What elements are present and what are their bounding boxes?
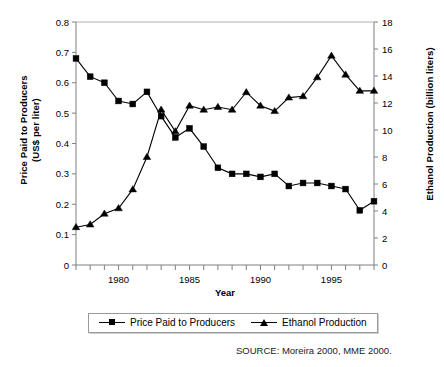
- y-axis-left: 00.10.20.30.40.50.60.70.8: [56, 17, 76, 271]
- svg-text:1995: 1995: [321, 274, 342, 285]
- x-axis-title: Year: [150, 287, 300, 298]
- chart-figure: Price Paid to Producers (US$ per liter) …: [0, 0, 444, 367]
- legend-item-price[interactable]: Price Paid to Producers: [99, 317, 235, 328]
- plot-canvas: 00.10.20.30.40.50.60.70.8 02468101214161…: [0, 0, 444, 367]
- svg-text:8: 8: [382, 152, 387, 163]
- svg-text:0.8: 0.8: [56, 17, 69, 28]
- svg-text:0.7: 0.7: [56, 47, 69, 58]
- svg-text:0.6: 0.6: [56, 77, 69, 88]
- svg-text:0.3: 0.3: [56, 168, 69, 179]
- svg-text:10: 10: [382, 125, 393, 136]
- legend-label-price: Price Paid to Producers: [130, 317, 235, 328]
- x-axis: 1980198519901995: [76, 265, 374, 285]
- legend-label-ethanol: Ethanol Production: [282, 317, 367, 328]
- data-series-group: [72, 52, 378, 230]
- svg-text:4: 4: [382, 206, 387, 217]
- svg-text:18: 18: [382, 17, 393, 28]
- svg-text:6: 6: [382, 179, 387, 190]
- square-marker-icon: [99, 318, 125, 328]
- svg-text:1985: 1985: [179, 274, 200, 285]
- svg-text:0.5: 0.5: [56, 108, 69, 119]
- y-axis-right: 024681012141618: [374, 17, 393, 271]
- svg-text:0.2: 0.2: [56, 199, 69, 210]
- chart-legend: Price Paid to Producers Ethanol Producti…: [88, 313, 378, 333]
- y-axis-left-title: Price Paid to Producers (US$ per liter): [18, 20, 42, 240]
- svg-text:2: 2: [382, 233, 387, 244]
- svg-text:12: 12: [382, 98, 393, 109]
- svg-text:1990: 1990: [250, 274, 271, 285]
- source-note: SOURCE: Moreira 2000, MME 2000.: [236, 345, 392, 356]
- svg-text:1980: 1980: [108, 274, 129, 285]
- svg-text:16: 16: [382, 44, 393, 55]
- svg-text:0: 0: [64, 260, 69, 271]
- svg-text:0: 0: [382, 260, 387, 271]
- legend-item-ethanol[interactable]: Ethanol Production: [251, 317, 367, 328]
- triangle-marker-icon: [251, 318, 277, 328]
- y-axis-right-title: Ethanol Production (billion liters): [424, 14, 436, 234]
- svg-text:0.4: 0.4: [56, 138, 69, 149]
- svg-text:0.1: 0.1: [56, 229, 69, 240]
- svg-text:14: 14: [382, 71, 393, 82]
